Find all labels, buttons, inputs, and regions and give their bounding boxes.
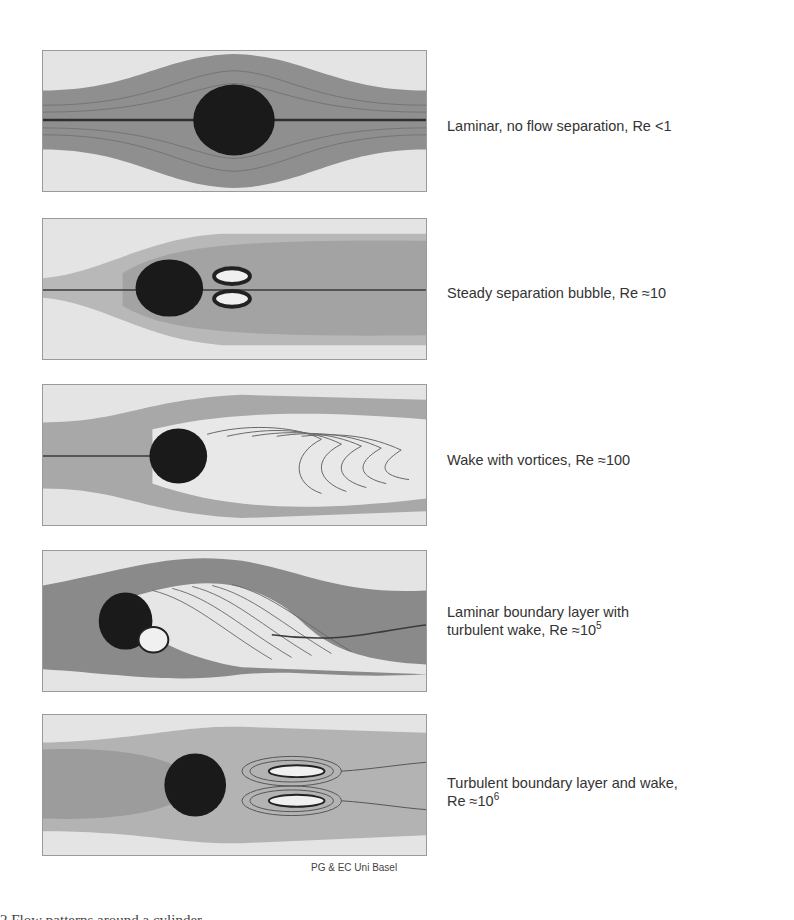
turbulent-wake-image	[43, 551, 426, 691]
cylinder-icon	[136, 259, 204, 316]
turbulent-boundary-layer-image	[43, 715, 426, 855]
vortex-bubble-icon	[214, 291, 250, 307]
vortex-bubble-icon	[214, 268, 250, 284]
vortex-bubble-icon	[139, 627, 169, 653]
separation-bubble-image	[43, 219, 426, 359]
laminar-flow-image	[43, 51, 426, 191]
cylinder-icon	[193, 85, 275, 156]
flow-panel-vortex-wake	[42, 384, 427, 526]
flow-panel-turbulent-bl	[42, 714, 427, 856]
label-separation-bubble: Steady separation bubble, Re ≈10	[447, 284, 666, 302]
label-vortex-wake: Wake with vortices, Re ≈100	[447, 451, 630, 469]
vortex-bubble-icon	[269, 765, 325, 777]
vortex-bubble-icon	[269, 795, 325, 807]
reynolds-exponent: 6	[494, 791, 500, 802]
label-turbulent-bl: Turbulent boundary layer and wake, Re ≈1…	[447, 774, 678, 810]
flow-panel-turbulent-wake	[42, 550, 427, 692]
cylinder-icon	[149, 428, 207, 483]
label-text: Wake with vortices, Re ≈100	[447, 452, 630, 468]
vortex-wake-image	[43, 385, 426, 525]
label-text: Laminar, no flow separation, Re <1	[447, 118, 671, 134]
label-text-line-1: Laminar boundary layer with	[447, 603, 629, 621]
cylinder-icon	[164, 753, 226, 816]
label-text-line-1: Turbulent boundary layer and wake,	[447, 774, 678, 792]
reynolds-exponent: 5	[596, 620, 602, 631]
image-credit: PG & EC Uni Basel	[311, 862, 397, 873]
flow-panel-laminar	[42, 50, 427, 192]
label-text-line-2: Re ≈10	[447, 793, 494, 809]
label-laminar: Laminar, no flow separation, Re <1	[447, 117, 671, 135]
figure-caption-partial: 2 Flow patterns around a cylinder	[0, 905, 202, 920]
label-text-line-2: turbulent wake, Re ≈10	[447, 622, 596, 638]
label-turbulent-wake: Laminar boundary layer with turbulent wa…	[447, 603, 629, 639]
label-text: Steady separation bubble, Re ≈10	[447, 285, 666, 301]
flow-panel-separation-bubble	[42, 218, 427, 360]
